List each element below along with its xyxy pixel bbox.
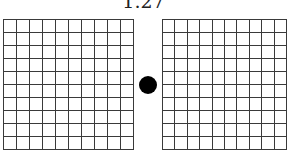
grid-cell: [17, 137, 30, 150]
grid-cell: [108, 46, 121, 59]
grid-cell: [237, 111, 249, 124]
grid-cell: [43, 72, 56, 85]
fixation-dot: [139, 76, 157, 94]
grid-cell: [175, 59, 187, 72]
grid-cell: [249, 33, 261, 46]
grid-cell: [262, 137, 274, 150]
grid-cell: [237, 59, 249, 72]
grid-cell: [121, 59, 134, 72]
grid-cell: [43, 137, 56, 150]
grid-cell: [69, 111, 82, 124]
grid-row: [163, 124, 287, 137]
grid-cell: [43, 124, 56, 137]
grid-cell: [56, 111, 69, 124]
grid-cell: [163, 46, 175, 59]
grid-cell: [249, 46, 261, 59]
grid-cell: [249, 124, 261, 137]
grid-row: [163, 85, 287, 98]
grid-cell: [95, 111, 108, 124]
grid-cell: [30, 46, 43, 59]
grid-cell: [237, 33, 249, 46]
grid-cell: [56, 85, 69, 98]
grid-cell: [237, 98, 249, 111]
grid-cell: [82, 111, 95, 124]
grid-cell: [30, 98, 43, 111]
grid-row: [4, 46, 134, 59]
grid-cell: [30, 33, 43, 46]
grid-cell: [108, 98, 121, 111]
grid-cell: [262, 33, 274, 46]
grid-cell: [200, 124, 212, 137]
grid-cell: [121, 72, 134, 85]
grid-cell: [82, 33, 95, 46]
grid-cell: [224, 59, 236, 72]
grid-cell: [187, 59, 199, 72]
grid-cell: [4, 98, 17, 111]
grid-cell: [121, 137, 134, 150]
grid-cell: [82, 20, 95, 33]
grid-cell: [224, 137, 236, 150]
grid-cell: [56, 33, 69, 46]
grid-cell: [121, 20, 134, 33]
grid-cell: [163, 124, 175, 137]
grid-cell: [187, 85, 199, 98]
grid-cell: [17, 85, 30, 98]
grid-cell: [4, 33, 17, 46]
grid-cell: [17, 46, 30, 59]
grid-cell: [43, 33, 56, 46]
grid-cell: [212, 72, 224, 85]
grid-cell: [163, 137, 175, 150]
grid-row: [4, 33, 134, 46]
grid-cell: [262, 111, 274, 124]
grid-row: [4, 111, 134, 124]
grid-cell: [237, 124, 249, 137]
grid-row: [4, 72, 134, 85]
grid-cell: [43, 46, 56, 59]
grid-cell: [56, 72, 69, 85]
grid-cell: [69, 124, 82, 137]
grid-cell: [274, 46, 286, 59]
grid-cell: [274, 98, 286, 111]
grid-row: [163, 59, 287, 72]
grid-cell: [274, 137, 286, 150]
grid-cell: [249, 85, 261, 98]
grid-cell: [175, 33, 187, 46]
grid-cell: [43, 59, 56, 72]
grid-cell: [212, 33, 224, 46]
grid-cell: [43, 85, 56, 98]
grid-cell: [274, 72, 286, 85]
grid-cell: [17, 33, 30, 46]
grid-cell: [108, 20, 121, 33]
left-grid: [3, 19, 134, 150]
grid-cell: [4, 111, 17, 124]
grid-cell: [187, 46, 199, 59]
grid-cell: [30, 20, 43, 33]
grid-row: [4, 98, 134, 111]
grid-cell: [43, 111, 56, 124]
grid-cell: [30, 124, 43, 137]
grid-cell: [163, 85, 175, 98]
grid-cell: [187, 111, 199, 124]
grid-row: [163, 98, 287, 111]
grid-cell: [69, 20, 82, 33]
right-grid: [162, 19, 287, 150]
grid-cell: [163, 111, 175, 124]
grid-cell: [237, 20, 249, 33]
grid-cell: [262, 20, 274, 33]
grid-cell: [82, 137, 95, 150]
grid-cell: [43, 20, 56, 33]
grid-cell: [4, 59, 17, 72]
grid-cell: [30, 85, 43, 98]
grid-cell: [262, 59, 274, 72]
grid-cell: [237, 72, 249, 85]
grid-cell: [69, 59, 82, 72]
grid-cell: [262, 46, 274, 59]
grid-cell: [200, 98, 212, 111]
grid-cell: [212, 46, 224, 59]
grid-cell: [187, 137, 199, 150]
grid-cell: [237, 137, 249, 150]
grid-cell: [212, 98, 224, 111]
grid-cell: [212, 59, 224, 72]
grid-row: [4, 59, 134, 72]
grid-cell: [56, 46, 69, 59]
